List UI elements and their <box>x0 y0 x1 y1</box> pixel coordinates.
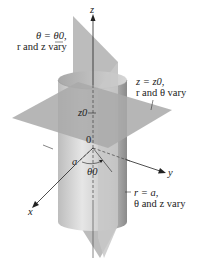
origin-label: 0 <box>86 134 91 145</box>
horizontal-plane-equation: z = z0, <box>136 76 164 87</box>
z0-label: z0 <box>78 107 87 118</box>
cylinder-equation: r = a, <box>134 187 158 198</box>
cylinder-note: θ and z vary <box>134 198 185 209</box>
cylindrical-coordinates-diagram <box>0 0 215 266</box>
z-axis-arrow-icon <box>91 14 96 21</box>
y-axis <box>127 160 160 171</box>
z-axis-label: z <box>90 4 94 15</box>
half-plane-equation: θ = θ0, <box>36 30 67 41</box>
radius-a-label: a <box>72 156 77 167</box>
y-axis-arrow-icon <box>158 168 166 174</box>
y-axis-label: y <box>168 167 173 178</box>
horizontal-plane-note: r and θ vary <box>136 87 186 98</box>
x-axis-label: x <box>28 206 33 217</box>
theta0-label: θ0 <box>87 166 97 177</box>
half-plane-note: r and z vary <box>17 41 67 52</box>
